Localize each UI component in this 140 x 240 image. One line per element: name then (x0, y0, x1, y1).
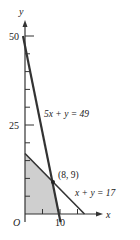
point-label: (8, 9) (58, 170, 79, 181)
y-tick-label-50: 50 (9, 31, 19, 42)
y-tick-label-25: 25 (9, 120, 19, 131)
x-axis-arrow-icon (96, 212, 103, 217)
x-tick-label-10: 10 (55, 217, 65, 228)
line-label-5x-plus-y-49: 5x + y = 49 (44, 109, 89, 119)
y-axis-arrow-icon (23, 20, 28, 27)
line-label-x-plus-y-17: x + y = 17 (74, 188, 117, 198)
intersection-point (51, 180, 55, 184)
origin-label: O (13, 217, 20, 228)
y-axis-label: y (18, 6, 24, 17)
x-axis-label: x (105, 209, 111, 220)
linear-programming-graph: y x O 50 25 10 5x + y = 49 x + y = 17 (8… (0, 0, 140, 240)
